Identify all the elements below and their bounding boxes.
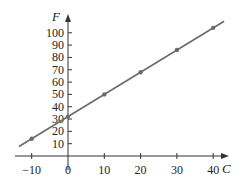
chart: −10010203040102030405060708090100 C F — [0, 0, 244, 181]
x-tick-label: 20 — [135, 163, 147, 177]
y-tick-label: 20 — [52, 124, 64, 138]
y-tick-label: 100 — [46, 26, 64, 40]
x-axis-arrow-icon — [221, 153, 229, 159]
y-tick-label: 30 — [52, 112, 64, 126]
data-point — [30, 137, 34, 141]
y-tick-label: 50 — [52, 87, 64, 101]
x-tick-label: 0 — [65, 163, 71, 177]
data-point — [102, 92, 106, 96]
y-axis-label: F — [51, 9, 61, 24]
y-axis-arrow-icon — [65, 14, 71, 22]
y-tick-label: 10 — [52, 137, 64, 151]
y-tick-label: 90 — [52, 38, 64, 52]
data-point — [175, 48, 179, 52]
y-tick-label: 60 — [52, 75, 64, 89]
x-tick-label: −10 — [22, 163, 41, 177]
data-point — [211, 26, 215, 30]
data-line — [19, 21, 224, 146]
x-tick-label: 10 — [98, 163, 110, 177]
data-point — [138, 70, 142, 74]
y-tick-label: 40 — [52, 100, 64, 114]
x-tick-label: 30 — [171, 163, 183, 177]
series-line — [19, 21, 224, 146]
data-point — [66, 114, 70, 118]
ticks: −10010203040102030405060708090100 — [22, 26, 219, 177]
y-tick-label: 80 — [52, 50, 64, 64]
x-tick-label: 40 — [207, 163, 219, 177]
y-tick-label: 70 — [52, 63, 64, 77]
x-axis-label: C — [222, 161, 231, 176]
